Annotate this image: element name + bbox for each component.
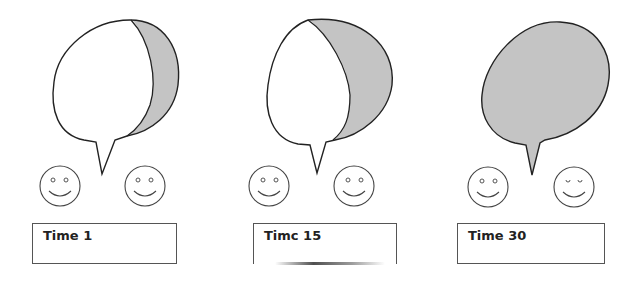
panel-3-left-smiley-face-icon (468, 167, 508, 207)
panel-2-speech-bubble (267, 5, 420, 173)
panel-2-label-box: Timc 15 (253, 223, 397, 264)
panel-1-left-smiley-face-icon (40, 166, 80, 206)
panel-3-speech-bubble (482, 22, 609, 175)
panel-1-speech-bubble (53, 10, 200, 174)
panel-3-right-smiley-face-icon (554, 167, 594, 207)
panel-2-label: Timc 15 (264, 228, 321, 243)
panel-2-right-smiley-face-icon (334, 166, 374, 206)
panel-1-label: Time 1 (43, 228, 92, 243)
panel-2-box-bottom-smudge (275, 262, 385, 265)
panel-2-left-smiley-face-icon (249, 166, 289, 206)
panel-3-label-box: Time 30 (457, 223, 605, 264)
diagram-stage: Time 1 Timc 15 Time 30 (0, 0, 640, 281)
panel-1-label-box: Time 1 (32, 223, 177, 264)
panel-1-right-smiley-face-icon (125, 166, 165, 206)
panel-3-label: Time 30 (468, 228, 526, 243)
